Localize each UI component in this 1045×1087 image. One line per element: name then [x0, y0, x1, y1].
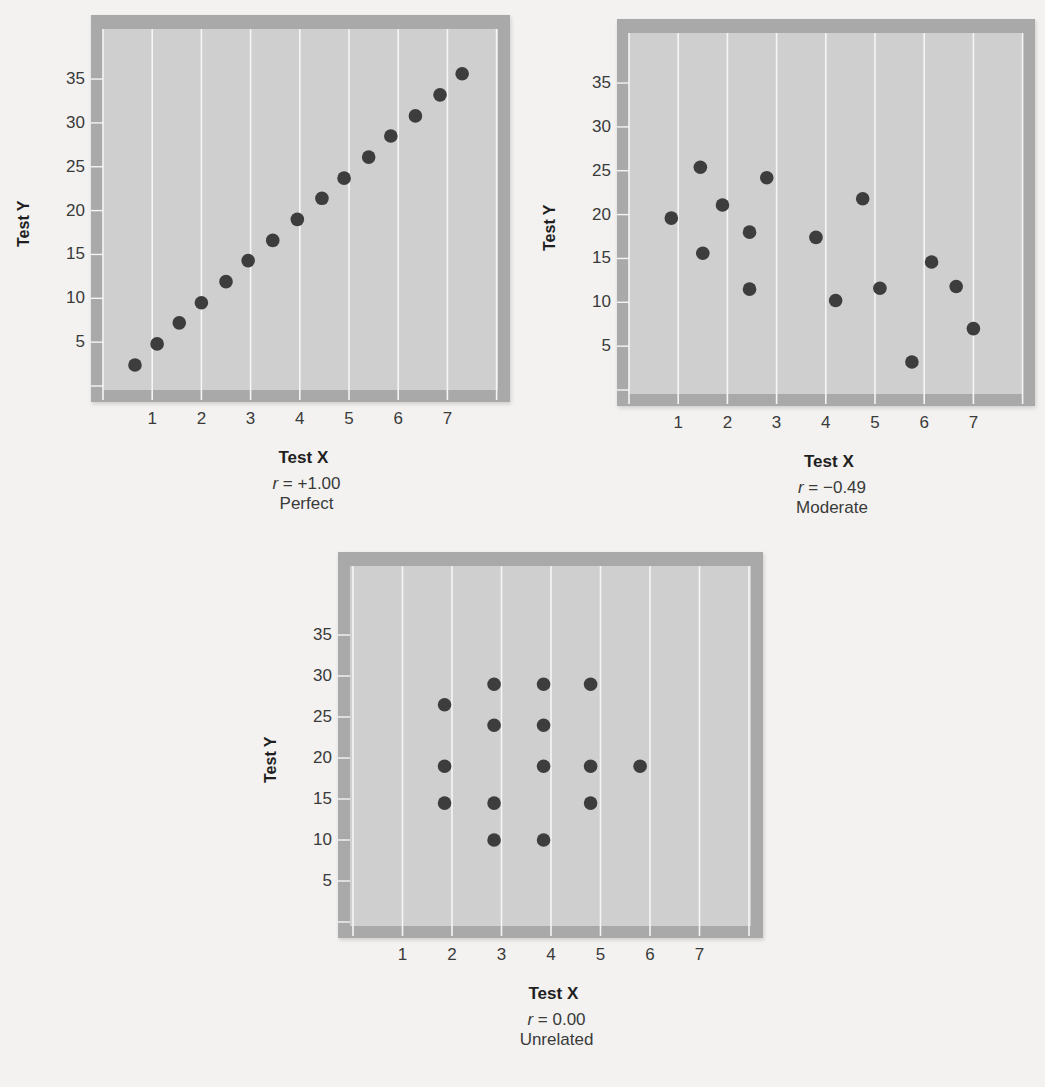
x-tick-label: 2 [717, 414, 737, 431]
y-tick-label: 10 [581, 293, 611, 310]
data-point [694, 160, 708, 174]
data-point [856, 192, 870, 206]
r-number: = −0.49 [804, 478, 866, 497]
data-point [743, 225, 757, 239]
data-point [433, 88, 447, 102]
x-tick-label: 4 [290, 410, 310, 427]
r-symbol: r [527, 1010, 533, 1029]
data-point [266, 234, 280, 248]
x-tick-label: 1 [393, 946, 413, 963]
y-tick-label: 15 [55, 245, 85, 262]
data-point [967, 322, 981, 336]
correlation-description: Unrelated [477, 1030, 637, 1050]
data-point [219, 275, 233, 289]
y-axis-title: Test Y [541, 204, 559, 251]
data-point [315, 192, 329, 206]
data-point [743, 282, 757, 296]
x-tick-label: 4 [541, 946, 561, 963]
y-tick-label: 5 [302, 872, 332, 889]
plot-svg [0, 0, 1045, 1087]
x-axis-title: Test X [529, 984, 579, 1004]
data-point [716, 198, 730, 212]
x-tick-label: 6 [640, 946, 660, 963]
data-point [829, 294, 843, 308]
data-point [584, 759, 598, 773]
x-axis-title: Test X [279, 448, 329, 468]
data-point [665, 211, 679, 225]
plot-frame [617, 19, 1035, 406]
data-point [949, 280, 963, 294]
y-tick-label: 20 [55, 202, 85, 219]
y-tick-label: 30 [302, 667, 332, 684]
plot-frame [91, 15, 510, 402]
data-point [128, 358, 142, 372]
data-point [384, 129, 398, 143]
y-tick-label: 20 [302, 749, 332, 766]
data-point [905, 355, 919, 369]
y-tick-label: 5 [581, 337, 611, 354]
y-axis-title: Test Y [15, 200, 33, 247]
x-tick-label: 4 [816, 414, 836, 431]
x-tick-label: 5 [591, 946, 611, 963]
correlation-caption: r = −0.49Moderate [752, 478, 912, 518]
y-tick-label: 5 [55, 333, 85, 350]
data-point [487, 833, 501, 847]
data-point [487, 718, 501, 732]
y-tick-label: 15 [302, 790, 332, 807]
data-point [362, 150, 376, 164]
y-tick-label: 25 [55, 158, 85, 175]
y-tick-label: 30 [55, 114, 85, 131]
data-point [455, 67, 469, 81]
x-tick-label: 3 [767, 414, 787, 431]
x-tick-label: 2 [442, 946, 462, 963]
y-axis-title: Test Y [262, 736, 280, 783]
scatter-chart-unrelated: 51015202530351234567Test YTest Xr = 0.00… [0, 0, 1045, 1087]
x-tick-label: 7 [690, 946, 710, 963]
data-point [537, 718, 551, 732]
scatter-chart-perfect: 51015202530351234567Test YTest Xr = +1.0… [0, 0, 1045, 1087]
data-point [760, 171, 774, 185]
x-tick-label: 7 [963, 414, 983, 431]
plot-area [103, 29, 498, 390]
data-point [487, 796, 501, 810]
r-value: r = +1.00 [227, 474, 387, 494]
y-tick-label: 20 [581, 206, 611, 223]
y-tick-label: 30 [581, 118, 611, 135]
x-tick-label: 7 [437, 410, 457, 427]
y-tick-label: 35 [55, 70, 85, 87]
x-tick-label: 5 [865, 414, 885, 431]
r-symbol: r [798, 478, 804, 497]
y-tick-label: 35 [581, 74, 611, 91]
data-point [409, 109, 423, 123]
data-point [696, 246, 710, 260]
x-tick-label: 1 [668, 414, 688, 431]
x-tick-label: 6 [388, 410, 408, 427]
data-point [438, 698, 452, 712]
x-tick-label: 3 [241, 410, 261, 427]
x-tick-label: 2 [191, 410, 211, 427]
data-point [537, 759, 551, 773]
plot-svg [0, 0, 1045, 1087]
plot-svg [0, 0, 1045, 1087]
data-point [537, 833, 551, 847]
data-point [172, 316, 186, 330]
plot-area [350, 566, 751, 926]
r-value: r = −0.49 [752, 478, 912, 498]
correlation-description: Moderate [752, 498, 912, 518]
correlation-caption: r = 0.00Unrelated [477, 1010, 637, 1050]
data-point [584, 796, 598, 810]
y-tick-label: 10 [55, 289, 85, 306]
data-point [633, 759, 647, 773]
data-point [537, 677, 551, 691]
data-point [195, 296, 209, 310]
r-number: = +1.00 [278, 474, 340, 493]
data-point [438, 796, 452, 810]
data-point [150, 337, 164, 351]
data-point [873, 281, 887, 295]
data-point [809, 231, 823, 245]
x-axis-title: Test X [804, 452, 854, 472]
r-number: = 0.00 [533, 1010, 585, 1029]
y-tick-label: 35 [302, 626, 332, 643]
correlation-description: Perfect [227, 494, 387, 514]
r-value: r = 0.00 [477, 1010, 637, 1030]
